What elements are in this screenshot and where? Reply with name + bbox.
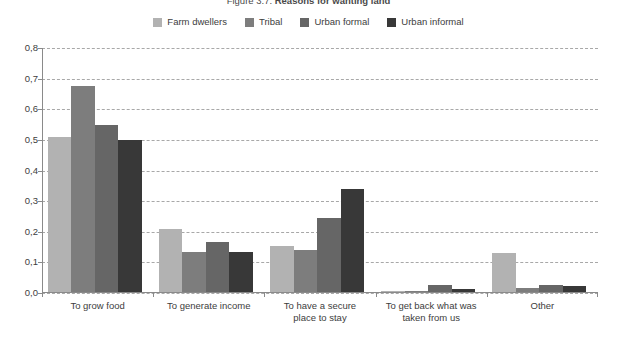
x-axis-category-label-line: To have a secure	[264, 300, 375, 312]
bar[interactable]	[71, 86, 95, 293]
x-axis-category-label: To grow food	[42, 300, 153, 312]
x-axis-category-label-line: place to stay	[264, 312, 375, 324]
bar[interactable]	[492, 253, 516, 293]
bar[interactable]	[229, 252, 253, 293]
bar[interactable]	[206, 242, 230, 293]
y-axis-tick-label: 0,8	[0, 43, 38, 53]
bar[interactable]	[159, 229, 183, 293]
bar[interactable]	[95, 125, 119, 293]
bar[interactable]	[317, 218, 341, 293]
y-axis-tick-label: 0,3	[0, 196, 38, 206]
bar[interactable]	[294, 250, 318, 293]
bar[interactable]	[182, 252, 206, 293]
chart-plot-wrapper: 0,00,10,20,30,40,50,60,70,8 To grow food…	[0, 0, 617, 341]
x-axis-category-label: Other	[487, 300, 598, 312]
plot-area	[42, 48, 598, 293]
x-axis-tick-mark	[487, 293, 488, 297]
y-axis-tick-label: 0,0	[0, 288, 38, 298]
x-axis-category-label-line: To grow food	[42, 300, 153, 312]
y-axis-tick-label: 0,1	[0, 257, 38, 267]
gridline	[42, 293, 598, 294]
x-axis-category-label-line: Other	[487, 300, 598, 312]
x-axis-category-labels: To grow foodTo generate incomeTo have a …	[42, 300, 598, 336]
bar[interactable]	[270, 246, 294, 293]
bars-layer	[42, 48, 598, 293]
y-axis-tick-label: 0,7	[0, 74, 38, 84]
y-axis-tick-label: 0,4	[0, 166, 38, 176]
bar[interactable]	[341, 189, 365, 293]
y-axis-tick-label: 0,5	[0, 135, 38, 145]
x-axis-category-label-line: taken from us	[376, 312, 487, 324]
x-axis-category-label-line: To get back what was	[376, 300, 487, 312]
x-axis-tick-mark	[42, 293, 43, 297]
x-axis-category-label: To have a secureplace to stay	[264, 300, 375, 323]
x-axis-tick-mark	[264, 293, 265, 297]
x-axis-category-label: To generate income	[153, 300, 264, 312]
bar[interactable]	[48, 137, 72, 293]
x-axis-tick-mark	[153, 293, 154, 297]
x-axis-tick-mark	[597, 293, 598, 297]
bar[interactable]	[118, 140, 142, 293]
x-axis-category-label-line: To generate income	[153, 300, 264, 312]
y-axis-tick-label: 0,2	[0, 227, 38, 237]
y-axis-tick-label: 0,6	[0, 104, 38, 114]
x-axis-category-label: To get back what wastaken from us	[376, 300, 487, 323]
y-axis-tick-labels: 0,00,10,20,30,40,50,60,70,8	[0, 42, 38, 298]
x-axis-line	[42, 292, 598, 293]
x-axis-tick-mark	[376, 293, 377, 297]
